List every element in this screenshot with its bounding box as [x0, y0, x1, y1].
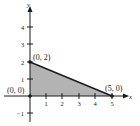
x-tick-label: 5: [111, 100, 114, 107]
vertex-label-y-intercept: (0, 2): [33, 53, 51, 62]
vertex-point: [110, 94, 114, 98]
x-tick-label: 3: [78, 100, 81, 107]
x-axis-label: x: [128, 93, 133, 101]
vertex-label-origin: (0, 0): [7, 86, 25, 95]
x-tick-label: 2: [61, 100, 64, 107]
y-tick-label: 4: [21, 24, 25, 31]
y-tick-label: −1: [17, 110, 24, 117]
coordinate-plane: x y 1 2 3 4 5 4 3 2 1 −1 (0, 0) (0, 2) (…: [0, 0, 140, 126]
vertex-label-x-intercept: (5, 0): [105, 84, 123, 93]
vertex-point: [28, 60, 32, 64]
x-tick-label: 1: [45, 100, 48, 107]
y-tick-label: 3: [21, 41, 24, 48]
vertex-point: [28, 94, 32, 98]
y-tick-label: 1: [21, 76, 24, 83]
x-tick-label: 4: [94, 100, 98, 107]
y-tick-label: 2: [21, 59, 24, 66]
